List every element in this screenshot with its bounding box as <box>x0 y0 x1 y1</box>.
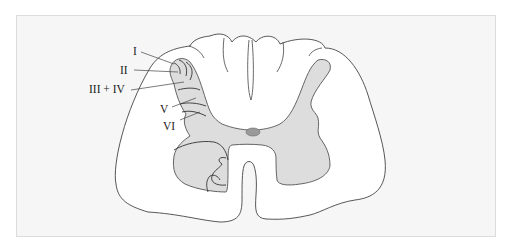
label-lamina-6: VI <box>163 120 175 132</box>
label-lamina-1: I <box>133 45 137 57</box>
label-lamina-3-4: III + IV <box>89 83 126 95</box>
label-lamina-2: II <box>120 64 128 76</box>
label-lamina-5: V <box>160 103 169 115</box>
spinal-cord-diagram: I II III + IV V VI <box>0 0 510 246</box>
central-canal <box>246 128 260 136</box>
